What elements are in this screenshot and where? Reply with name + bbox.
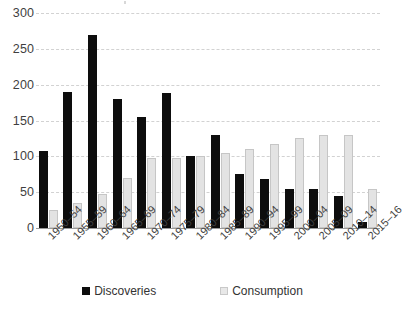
x-axis-tick-slot: 1950–54 xyxy=(36,228,61,280)
bar-group xyxy=(257,13,282,228)
legend-swatch-consumption-icon xyxy=(220,287,228,295)
bar-group xyxy=(110,13,135,228)
top-artifact-speck xyxy=(124,1,126,4)
bar-group xyxy=(282,13,307,228)
bar-group xyxy=(159,13,184,228)
bar-group xyxy=(306,13,331,228)
bar-group xyxy=(331,13,356,228)
bar-group xyxy=(208,13,233,228)
chart-legend: Discoveries Consumption xyxy=(0,285,385,297)
bar-group xyxy=(233,13,258,228)
bar-group xyxy=(36,13,61,228)
y-axis-tick-250: 250 xyxy=(0,43,34,55)
bar-discoveries-1950–54 xyxy=(39,151,48,228)
x-axis-tick-slot: 2015–16 xyxy=(356,228,381,280)
x-axis-tick-slot: 1960–64 xyxy=(85,228,110,280)
legend-swatch-discoveries-icon xyxy=(82,287,90,295)
x-axis-tick-slot: 1955–59 xyxy=(61,228,86,280)
legend-item-consumption: Consumption xyxy=(220,285,303,297)
y-axis-tick-0: 0 xyxy=(0,222,34,234)
bar-group xyxy=(183,13,208,228)
y-axis-tick-150: 150 xyxy=(0,115,34,127)
x-axis-tick-labels: 1950–541955–591960–641965–691970–741975–… xyxy=(36,228,380,280)
bar-group xyxy=(134,13,159,228)
legend-item-discoveries: Discoveries xyxy=(82,285,156,297)
plot-area xyxy=(36,13,380,228)
y-axis-tick-300: 300 xyxy=(0,7,34,19)
x-axis-tick-slot: 1970–74 xyxy=(134,228,159,280)
bar-group xyxy=(356,13,381,228)
y-axis-tick-200: 200 xyxy=(0,79,34,91)
y-axis-tick-100: 100 xyxy=(0,150,34,162)
legend-label-discoveries: Discoveries xyxy=(94,285,156,297)
bar-group xyxy=(61,13,86,228)
bar-groups xyxy=(36,13,380,228)
bar-discoveries-1960–64 xyxy=(88,35,97,229)
x-axis-tick-slot: 1995–99 xyxy=(257,228,282,280)
x-axis-tick-slot: 1990–94 xyxy=(233,228,258,280)
legend-label-consumption: Consumption xyxy=(232,285,303,297)
x-axis-tick-slot: 1975–79 xyxy=(159,228,184,280)
x-axis-tick-slot: 1985–89 xyxy=(208,228,233,280)
bar-group xyxy=(85,13,110,228)
x-axis-tick-slot: 1980–84 xyxy=(183,228,208,280)
x-axis-tick-slot: 1965–69 xyxy=(110,228,135,280)
x-axis-tick-slot: 2010–14 xyxy=(331,228,356,280)
x-axis-tick-slot: 2000–04 xyxy=(282,228,307,280)
x-axis-tick-slot: 2005–09 xyxy=(306,228,331,280)
y-axis-tick-50: 50 xyxy=(0,186,34,198)
